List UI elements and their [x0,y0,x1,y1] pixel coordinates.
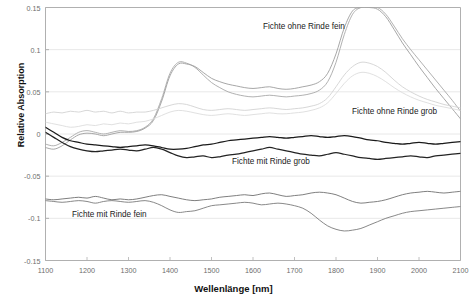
series-annotation-fichte-mit-rinde-fein: Fichte mit Rinde fein [72,210,147,219]
series-line-6 [46,191,461,203]
series-line-2 [46,62,461,114]
series-annotation-fichte-mit-rinde-grob: Fichte mit Rinde grob [232,157,310,166]
series-annotation-fichte-ohne-rinde-grob: Fichte ohne Rinde grob [352,107,437,116]
series-line-1 [46,7,461,149]
series-lines [46,7,461,231]
series-line-4 [46,127,461,149]
series-annotation-fichte-ohne-rinde-fein: Fichte ohne Rinde fein [263,22,345,31]
x-axis-tick-marks [46,257,461,261]
series-line-3 [46,72,461,127]
series-line-0 [46,7,461,146]
